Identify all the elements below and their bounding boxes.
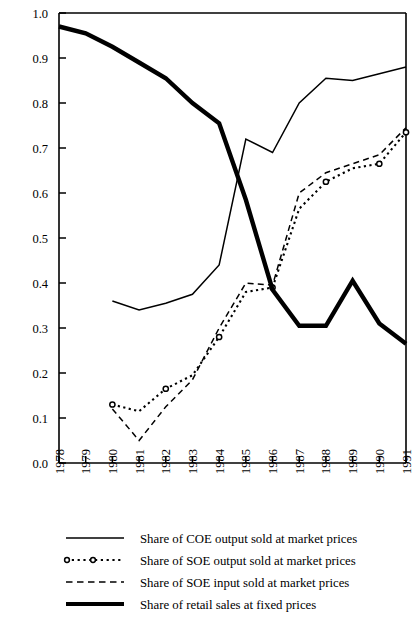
y-tick-label: 1.0: [32, 7, 48, 21]
x-tick-label: 1985: [239, 449, 253, 474]
legend-item: Share of SOE input sold at market prices: [66, 576, 349, 590]
y-tick-label: 0.6: [32, 187, 48, 201]
legend-item: Share of retail sales at fixed prices: [66, 598, 316, 612]
x-tick-label: 1981: [133, 449, 147, 474]
x-tick-label: 1983: [186, 449, 200, 474]
y-tick-label: 0.7: [32, 142, 48, 156]
chart-legend: Share of COE output sold at market price…: [65, 532, 358, 612]
legend-item-label: Share of COE output sold at market price…: [140, 532, 357, 546]
series-line-soe-input: [112, 128, 406, 441]
y-axis-ticks: 0.00.10.20.30.40.50.60.70.80.91.0: [32, 7, 66, 471]
x-axis-ticks: 1978197919801981198219831984198519861987…: [53, 448, 414, 474]
y-tick-label: 0.3: [32, 322, 48, 336]
series-line-soe-output: [112, 132, 406, 411]
series-marker-soe-output: [217, 334, 222, 339]
y-tick-label: 0.4: [32, 277, 48, 291]
legend-item-label: Share of retail sales at fixed prices: [140, 598, 316, 612]
x-tick-label: 1979: [79, 449, 93, 474]
x-tick-label: 1989: [346, 449, 360, 474]
series-marker-soe-output: [377, 161, 382, 166]
y-tick-label: 0.9: [32, 52, 48, 66]
legend-swatch-marker: [91, 558, 96, 563]
x-tick-label: 1986: [266, 449, 280, 474]
x-tick-label: 1990: [373, 449, 387, 474]
x-tick-label: 1978: [53, 449, 67, 474]
x-tick-label: 1991: [400, 449, 414, 474]
y-tick-label: 0.1: [32, 412, 48, 426]
series-line-retail-sales: [59, 27, 406, 344]
x-tick-label: 1987: [293, 449, 307, 474]
series-marker-soe-output: [110, 402, 115, 407]
line-chart-canvas: 0.00.10.20.30.40.50.60.70.80.91.0 197819…: [0, 0, 415, 617]
series-marker-soe-output: [323, 179, 328, 184]
legend-item-label: Share of SOE output sold at market price…: [140, 554, 356, 568]
y-tick-label: 0.0: [32, 457, 48, 471]
chart-figure: 0.00.10.20.30.40.50.60.70.80.91.0 197819…: [0, 0, 415, 617]
data-series-group: [59, 27, 409, 441]
x-tick-label: 1982: [159, 449, 173, 474]
y-tick-label: 0.2: [32, 367, 48, 381]
legend-item: Share of COE output sold at market price…: [66, 532, 357, 546]
series-marker-soe-output: [163, 386, 168, 391]
y-tick-label: 0.5: [32, 232, 48, 246]
y-tick-label: 0.8: [32, 97, 48, 111]
x-tick-label: 1988: [319, 449, 333, 474]
legend-item: Share of SOE output sold at market price…: [65, 554, 356, 568]
legend-item-label: Share of SOE input sold at market prices: [140, 576, 349, 590]
legend-swatch-marker: [65, 558, 70, 563]
x-tick-label: 1980: [106, 449, 120, 474]
series-line-coe-output: [112, 67, 406, 310]
x-tick-label: 1984: [213, 448, 227, 474]
